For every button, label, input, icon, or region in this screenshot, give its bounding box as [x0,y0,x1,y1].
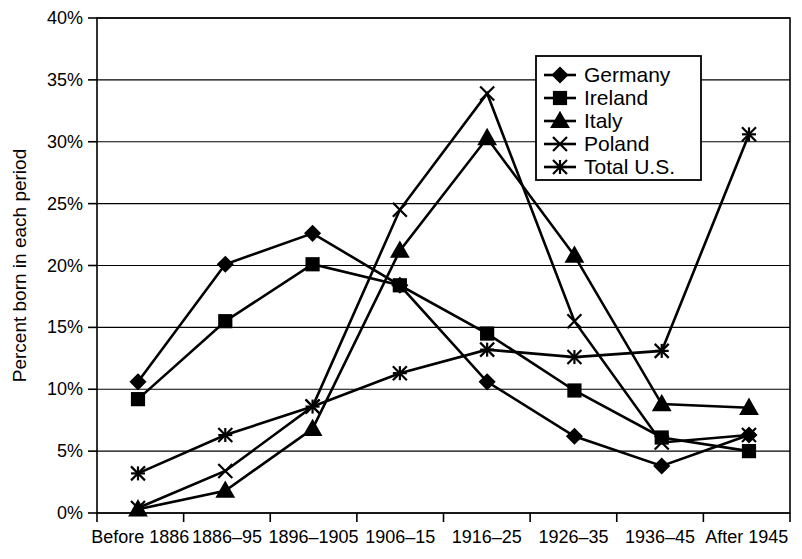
y-tick-label: 10% [47,379,83,399]
line-chart: 0%5%10%15%20%25%30%35%40% Percent born i… [0,0,802,559]
chart-container: 0%5%10%15%20%25%30%35%40% Percent born i… [0,0,802,559]
marker-square [132,393,144,405]
x-category-label: 1886–95 [192,527,262,547]
x-category-label: 1916–25 [452,527,522,547]
marker-square [481,328,493,340]
x-category-label: 1906–15 [365,527,435,547]
y-tick-label: 20% [47,256,83,276]
marker-square [554,92,566,104]
y-tick-label: 30% [47,132,83,152]
y-tick-label: 0% [57,503,83,523]
marker-square [743,445,755,457]
y-tick-label: 5% [57,441,83,461]
legend-item-label: Total U.S. [584,155,675,178]
y-tick-label: 15% [47,317,83,337]
legend-item-label: Poland [584,132,649,155]
x-category-label: 1936–45 [625,527,695,547]
marker-square [394,279,406,291]
legend-item-label: Italy [584,109,623,132]
y-axis-title: Percent born in each period [9,149,30,382]
legend-item-label: Ireland [584,86,648,109]
x-category-label: Before 1886 [91,527,189,547]
x-category-label: After 1945 [705,527,788,547]
marker-square [219,315,231,327]
chart-legend[interactable]: GermanyIrelandItalyPolandTotal U.S. [536,56,701,180]
x-category-label: 1926–35 [538,527,608,547]
y-tick-label: 25% [47,194,83,214]
x-category-label: 1896–1905 [269,527,359,547]
marker-square [568,384,580,396]
y-tick-label: 35% [47,70,83,90]
marker-square [307,258,319,270]
y-tick-label: 40% [47,8,83,28]
y-axis-title-text: Percent born in each period [9,149,30,382]
legend-item-label: Germany [584,63,671,86]
